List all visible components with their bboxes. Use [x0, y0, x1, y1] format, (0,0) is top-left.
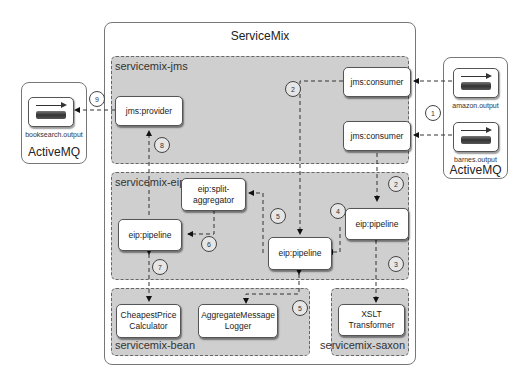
queue-direction-line	[36, 105, 64, 106]
arrow-right-icon	[486, 127, 492, 133]
queue-booksearch-output[interactable]	[28, 97, 74, 127]
zone-label-saxon: servicemix-saxon	[320, 339, 405, 351]
queue-amazon-output[interactable]	[453, 68, 499, 98]
node-cheapest-price-calculator[interactable]: CheapestPrice Calculator	[116, 304, 181, 338]
arrow-right-icon	[486, 73, 492, 79]
node-jms-provider[interactable]: jms:provider	[115, 96, 183, 126]
queue-direction-line	[461, 76, 489, 77]
activemq-left-title: ActiveMQ	[22, 145, 86, 159]
step-marker-2-right: 2	[388, 176, 404, 192]
step-marker-5-lower: 5	[292, 300, 308, 316]
queue-label-amazon: amazon.output	[444, 102, 507, 109]
queue-bar-icon	[461, 82, 491, 90]
activemq-right: amazon.output barnes.output ActiveMQ	[443, 57, 508, 179]
node-label-line2: Logger	[225, 321, 251, 332]
step-marker-5-upper: 5	[270, 208, 286, 224]
node-eip-split-aggregator[interactable]: eip:split- aggregator	[181, 178, 246, 211]
queue-barnes-output[interactable]	[453, 122, 499, 152]
step-marker-2-top: 2	[285, 81, 301, 97]
node-eip-pipeline-left[interactable]: eip:pipeline	[118, 219, 182, 251]
node-label-line2: aggregator	[193, 195, 234, 206]
queue-bar-icon	[36, 111, 66, 119]
queue-bar-icon	[461, 136, 491, 144]
step-marker-9: 9	[89, 91, 105, 107]
node-jms-consumer-amazon[interactable]: jms:consumer	[343, 67, 411, 97]
queue-label-barnes: barnes.output	[444, 156, 507, 163]
zone-label-jms: servicemix-jms	[115, 60, 188, 72]
step-marker-6: 6	[201, 236, 217, 252]
queue-direction-line	[461, 130, 489, 131]
node-eip-pipeline-center[interactable]: eip:pipeline	[268, 237, 332, 270]
node-xslt-transformer[interactable]: XSLT Transformer	[338, 304, 405, 336]
step-marker-1: 1	[425, 105, 441, 121]
step-marker-4: 4	[330, 203, 346, 219]
arrow-right-icon	[61, 102, 67, 108]
node-label-line1: eip:split-	[198, 184, 230, 195]
node-jms-consumer-barnes[interactable]: jms:consumer	[343, 121, 411, 151]
node-label-line1: CheapestPrice	[121, 310, 177, 321]
node-eip-pipeline-right[interactable]: eip:pipeline	[345, 208, 409, 240]
node-label-line2: Calculator	[129, 321, 167, 332]
zone-label-bean: servicemix-bean	[115, 339, 195, 351]
step-marker-7: 7	[152, 259, 168, 275]
servicemix-title: ServiceMix	[105, 29, 415, 43]
step-marker-3: 3	[388, 256, 404, 272]
node-label-line1: AggregateMessage	[201, 310, 275, 321]
queue-label-booksearch: booksearch.output	[22, 131, 86, 138]
node-aggregate-message-logger[interactable]: AggregateMessage Logger	[198, 304, 278, 338]
activemq-right-title: ActiveMQ	[444, 163, 507, 177]
activemq-left: booksearch.output ActiveMQ	[21, 82, 87, 164]
step-marker-8: 8	[154, 137, 170, 153]
zone-label-eip: servicemix-eip	[115, 176, 185, 188]
